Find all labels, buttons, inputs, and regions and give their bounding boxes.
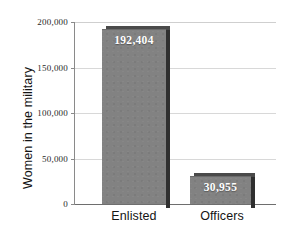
y-tick-label-0: 0 [0,199,68,209]
x-category-label-officers: Officers [186,209,258,223]
x-category-label-enlisted: Enlisted [98,209,170,223]
gridline-200000 [75,22,276,23]
y-tick-label-50000: 50,000 [0,154,68,164]
bar-value-enlisted: 192,404 [102,34,166,46]
bar-officers-side-shadow [251,177,255,208]
bar-enlisted[interactable] [102,29,166,204]
bar-value-officers: 30,955 [190,181,251,193]
bar-chart-figure: Women in the military 200,000 150,000 10… [0,0,291,238]
y-tick-label-100000: 100,000 [0,108,68,118]
x-axis-line [75,204,276,205]
bar-enlisted-side-shadow [166,30,170,208]
y-tick-label-150000: 150,000 [0,63,68,73]
y-tick-label-200000: 200,000 [0,17,68,27]
